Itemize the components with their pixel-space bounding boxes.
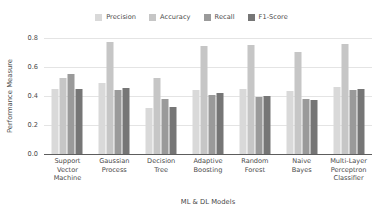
bar[interactable] bbox=[162, 99, 169, 154]
bar[interactable] bbox=[209, 95, 216, 154]
x-tick-label-line: Gaussian bbox=[92, 157, 137, 166]
x-tick-label: DecisionTree bbox=[138, 157, 185, 183]
x-tick-label: NaiveBayes bbox=[278, 157, 325, 183]
x-axis-title: ML & DL Models bbox=[44, 198, 372, 206]
bar-group-bars bbox=[333, 38, 364, 154]
bar[interactable] bbox=[357, 89, 364, 154]
bar-group bbox=[231, 38, 278, 154]
x-tick-label: SupportVectorMachine bbox=[44, 157, 91, 183]
legend-swatch-icon bbox=[95, 14, 102, 21]
x-tick-label-line: Tree bbox=[139, 166, 184, 175]
bar[interactable] bbox=[294, 52, 301, 154]
bar-group-bars bbox=[239, 38, 270, 154]
bar-group bbox=[138, 38, 185, 154]
bar[interactable] bbox=[52, 89, 59, 154]
legend-entry-recall[interactable]: Recall bbox=[204, 13, 235, 21]
x-tick-label-line: Perceptron bbox=[326, 166, 371, 175]
x-tick-label-line: Naive bbox=[279, 157, 324, 166]
chart-legend: PrecisionAccuracyRecallF1-Score bbox=[0, 13, 383, 21]
bar[interactable] bbox=[146, 108, 153, 154]
bar-group bbox=[44, 38, 91, 154]
bar[interactable] bbox=[247, 45, 254, 154]
x-tick-label-line: Classifier bbox=[326, 174, 371, 183]
bar[interactable] bbox=[170, 107, 177, 154]
x-tick-label-line: Random bbox=[232, 157, 277, 166]
bar-group bbox=[325, 38, 372, 154]
bar-groups bbox=[44, 38, 372, 154]
bar-group bbox=[278, 38, 325, 154]
bar[interactable] bbox=[193, 90, 200, 154]
bar[interactable] bbox=[341, 44, 348, 154]
bar[interactable] bbox=[99, 83, 106, 154]
bar[interactable] bbox=[201, 46, 208, 154]
bar[interactable] bbox=[255, 97, 262, 154]
x-tick-label-line: Forest bbox=[232, 166, 277, 175]
bar-group-bars bbox=[146, 38, 177, 154]
x-tick-label-line: Machine bbox=[45, 174, 90, 183]
x-axis-ticks: SupportVectorMachineGaussianProcessDecis… bbox=[44, 157, 372, 183]
x-tick-label-line: Process bbox=[92, 166, 137, 175]
bar[interactable] bbox=[217, 93, 224, 154]
legend-swatch-icon bbox=[248, 14, 255, 21]
bar[interactable] bbox=[123, 88, 130, 154]
bar-group bbox=[91, 38, 138, 154]
y-axis-title: Performance Measure bbox=[6, 36, 14, 156]
legend-entry-accuracy[interactable]: Accuracy bbox=[149, 13, 191, 21]
x-tick-label-line: Vector bbox=[45, 166, 90, 175]
bar[interactable] bbox=[107, 42, 114, 154]
x-tick-label-line: Bayes bbox=[279, 166, 324, 175]
legend-label: Recall bbox=[215, 13, 235, 21]
bar[interactable] bbox=[60, 78, 67, 154]
bar-group-bars bbox=[286, 38, 317, 154]
bar[interactable] bbox=[76, 89, 83, 154]
x-tick-label: Multi-LayerPerceptronClassifier bbox=[325, 157, 372, 183]
x-tick-label-line: Boosting bbox=[186, 166, 231, 175]
bar-group-bars bbox=[52, 38, 83, 154]
bar[interactable] bbox=[239, 89, 246, 154]
legend-swatch-icon bbox=[149, 14, 156, 21]
x-tick-label-line: Decision bbox=[139, 157, 184, 166]
chart-figure: PrecisionAccuracyRecallF1-Score 0.00.20.… bbox=[0, 0, 383, 217]
legend-label: F1-Score bbox=[259, 13, 288, 21]
x-axis-line bbox=[44, 154, 372, 155]
x-tick-label: AdaptiveBoosting bbox=[185, 157, 232, 183]
bar[interactable] bbox=[68, 74, 75, 154]
x-tick-label-line: Support bbox=[45, 157, 90, 166]
x-tick-label: GaussianProcess bbox=[91, 157, 138, 183]
bar[interactable] bbox=[310, 100, 317, 154]
legend-entry-precision[interactable]: Precision bbox=[95, 13, 136, 21]
bar[interactable] bbox=[115, 90, 122, 154]
bar[interactable] bbox=[333, 87, 340, 154]
bar-group-bars bbox=[193, 38, 224, 154]
bar[interactable] bbox=[302, 99, 309, 154]
legend-entry-f1-score[interactable]: F1-Score bbox=[248, 13, 288, 21]
x-tick-label-line: Adaptive bbox=[186, 157, 231, 166]
bar-group-bars bbox=[99, 38, 130, 154]
legend-swatch-icon bbox=[204, 14, 211, 21]
legend-label: Accuracy bbox=[160, 13, 191, 21]
bar[interactable] bbox=[263, 96, 270, 154]
bar-group bbox=[185, 38, 232, 154]
bar[interactable] bbox=[154, 78, 161, 154]
x-tick-label: RandomForest bbox=[231, 157, 278, 183]
legend-label: Precision bbox=[106, 13, 136, 21]
x-tick-label-line: Multi-Layer bbox=[326, 157, 371, 166]
bar[interactable] bbox=[286, 91, 293, 154]
bar[interactable] bbox=[349, 90, 356, 154]
